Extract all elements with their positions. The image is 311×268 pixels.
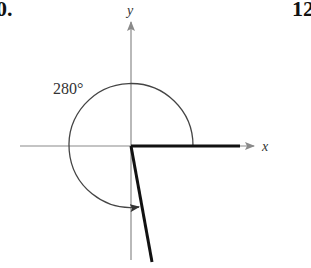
y-axis-label: y xyxy=(125,3,134,18)
x-axis-label: x xyxy=(261,139,269,154)
angle-diagram: 280° x y xyxy=(0,0,311,268)
terminal-side xyxy=(131,146,152,262)
angle-label: 280° xyxy=(53,80,83,97)
